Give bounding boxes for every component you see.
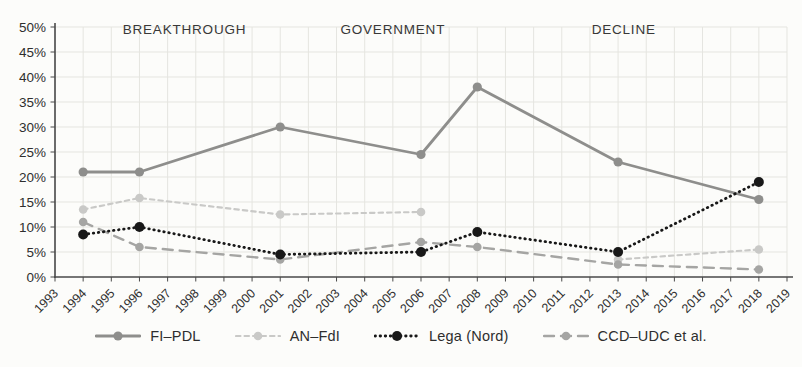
data-point-lega-nord [754,177,764,187]
data-point-fi-pdl [276,122,285,131]
x-axis-label: 1993 [32,286,62,316]
x-axis-label: 2007 [426,286,456,316]
legend-item-an-fdi: AN–FdI [235,328,340,344]
y-axis-label: 30% [19,120,46,135]
y-axis-label: 20% [19,170,46,185]
phase-label-breakthrough: BREAKTHROUGH [123,22,247,37]
data-point-fi-pdl [613,157,622,166]
y-axis-label: 0% [26,270,46,285]
legend-label-an-fdi: AN–FdI [290,328,340,344]
legend-swatch-an-fdi [235,329,281,343]
x-axis-label: 2016 [679,286,709,316]
data-point-fi-pdl [473,82,482,91]
legend-label-fi-pdl: FI–PDL [150,328,200,344]
data-point-an-fdi [135,194,144,203]
legend-swatch-fi-pdl [95,329,141,343]
figure-scan-page: 0%5%10%15%20%25%30%35%40%45%50%199319941… [0,0,802,367]
x-axis-label: 2009 [482,286,512,316]
y-axis-label: 15% [19,195,46,210]
data-point-ccd-udc-et-al [79,218,88,227]
vote-share-line-chart: 0%5%10%15%20%25%30%35%40%45%50%199319941… [0,0,802,326]
legend-item-lega-nord: Lega (Nord) [374,328,509,344]
legend-item-ccd-udc-et-al: CCD–UDC et al. [543,328,707,344]
y-axis-label: 5% [26,245,46,260]
data-point-lega-nord [472,227,482,237]
x-axis-label: 2010 [510,286,540,316]
y-axis-label: 35% [19,95,46,110]
x-axis-label: 2002 [285,286,315,316]
data-point-lega-nord [275,250,285,260]
x-axis-label: 2004 [341,286,371,316]
x-axis-label: 2003 [313,286,343,316]
x-axis-label: 2005 [369,286,399,316]
chart-legend: FI–PDLAN–FdILega (Nord)CCD–UDC et al. [0,328,802,344]
data-point-ccd-udc-et-al [417,238,426,247]
data-point-lega-nord [78,230,88,240]
x-axis-label: 2014 [623,286,653,316]
x-axis-label: 2017 [707,286,737,316]
legend-label-ccd-udc-et-al: CCD–UDC et al. [598,328,707,344]
x-axis-label: 1999 [200,286,230,316]
phase-label-decline: DECLINE [592,22,656,37]
data-point-an-fdi [755,245,764,254]
x-axis-label: 1994 [60,286,90,316]
data-point-lega-nord [134,222,144,232]
legend-item-fi-pdl: FI–PDL [95,328,200,344]
series-line-an-fdi [618,250,759,260]
y-axis-label: 45% [19,45,46,60]
x-axis-label: 2000 [229,286,259,316]
x-axis-label: 1995 [88,286,118,316]
x-axis-label: 1997 [144,286,174,316]
x-axis-label: 2013 [595,286,625,316]
x-axis-label: 2011 [539,286,568,315]
data-point-fi-pdl [416,150,425,159]
data-point-lega-nord [613,247,623,257]
x-axis-label: 2019 [764,286,794,316]
data-point-an-fdi [417,208,426,217]
y-axis-label: 40% [19,70,46,85]
data-point-lega-nord [416,247,426,257]
y-axis-label: 50% [19,20,46,35]
data-point-ccd-udc-et-al [614,260,623,269]
x-axis-label: 2001 [257,286,287,316]
legend-swatch-ccd-udc-et-al [543,329,589,343]
legend-swatch-lega-nord [374,329,420,343]
legend-label-lega-nord: Lega (Nord) [429,328,509,344]
data-point-fi-pdl [754,195,763,204]
y-axis-label: 10% [19,220,46,235]
x-axis-label: 2012 [566,286,596,316]
data-point-fi-pdl [79,167,88,176]
data-point-an-fdi [79,205,88,214]
x-axis-label: 2018 [735,286,765,316]
x-axis-label: 2006 [398,286,428,316]
x-axis-label: 1998 [172,286,202,316]
data-point-ccd-udc-et-al [135,243,144,252]
x-axis-label: 2015 [651,286,681,316]
x-axis-label: 2008 [454,286,484,316]
x-axis-label: 1996 [116,286,146,316]
data-point-fi-pdl [135,167,144,176]
data-point-ccd-udc-et-al [755,265,764,274]
phase-label-government: GOVERNMENT [340,22,445,37]
data-point-ccd-udc-et-al [473,243,482,252]
y-axis-label: 25% [19,145,46,160]
data-point-an-fdi [276,210,285,219]
